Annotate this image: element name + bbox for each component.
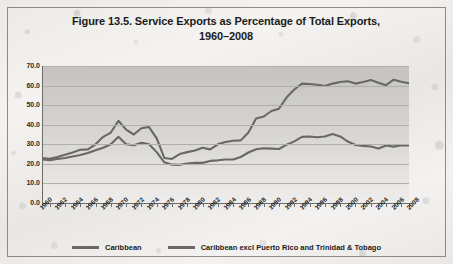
y-axis-tick-label: 30.0 xyxy=(6,140,40,147)
legend-item-label: Caribbean xyxy=(105,243,142,252)
legend-item-caribbean-excl[interactable]: Caribbean excl Puerto Rico and Trinidad … xyxy=(168,243,381,252)
figure-title-line1: Figure 13.5. Service Exports as Percenta… xyxy=(72,15,380,27)
gridline xyxy=(42,164,409,165)
legend-item-label: Caribbean excl Puerto Rico and Trinidad … xyxy=(201,243,381,252)
gridline xyxy=(42,125,409,126)
x-axis-labels: 1960196219641966196819701972197419761978… xyxy=(42,206,410,246)
legend-line-swatch xyxy=(168,246,195,249)
gridline xyxy=(42,105,409,106)
y-axis-tick-label: 70.0 xyxy=(6,62,40,69)
y-axis-tick-label: 40.0 xyxy=(6,121,40,128)
gridline xyxy=(42,183,409,184)
chart-legend: Caribbean Caribbean excl Puerto Rico and… xyxy=(0,243,453,252)
legend-item-caribbean[interactable]: Caribbean xyxy=(72,243,142,252)
series-line xyxy=(42,134,409,165)
y-axis-tick-label: 20.0 xyxy=(6,160,40,167)
y-axis-tick-label: 50.0 xyxy=(6,101,40,108)
y-axis-labels: 0.010.020.030.040.050.060.070.0 xyxy=(0,0,40,264)
gridline xyxy=(42,144,409,145)
y-axis-tick-label: 10.0 xyxy=(6,179,40,186)
y-axis-tick-label: 60.0 xyxy=(6,82,40,89)
gridline xyxy=(42,86,409,87)
y-axis-tick-label: 0.0 xyxy=(6,199,40,206)
legend-line-swatch xyxy=(72,246,99,249)
series-line xyxy=(42,80,409,159)
figure-title: Figure 13.5. Service Exports as Percenta… xyxy=(40,14,412,44)
figure-title-line2: 1960–2008 xyxy=(40,29,412,44)
plot-area xyxy=(42,66,409,203)
figure-container: Figure 13.5. Service Exports as Percenta… xyxy=(0,0,453,264)
gridline xyxy=(42,66,409,67)
y-axis-line xyxy=(42,66,43,204)
